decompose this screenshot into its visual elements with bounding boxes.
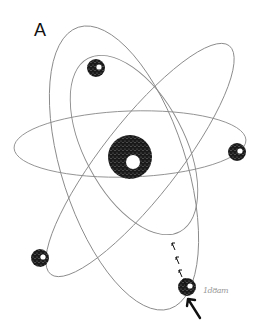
artist-signature: 1d8am xyxy=(203,286,228,295)
electron-bottom-right-highlight xyxy=(187,283,192,288)
electron-top xyxy=(87,59,105,77)
big-arrow-icon xyxy=(187,299,200,318)
electron-lower-left xyxy=(31,249,49,267)
electron-bottom-right xyxy=(178,278,196,296)
small-arrow-icon xyxy=(176,257,179,264)
electron-right-highlight xyxy=(237,148,242,153)
small-arrow-icon xyxy=(172,243,175,250)
atom-drawing xyxy=(0,0,258,331)
electron-lower-left-highlight xyxy=(40,254,45,259)
small-arrow-icon xyxy=(179,270,182,277)
nucleus-core xyxy=(126,155,140,169)
panel-label: A xyxy=(34,20,46,41)
atom-diagram: A 1d8am xyxy=(0,0,258,331)
electron-right xyxy=(228,143,246,161)
electron-top-highlight xyxy=(96,64,101,69)
